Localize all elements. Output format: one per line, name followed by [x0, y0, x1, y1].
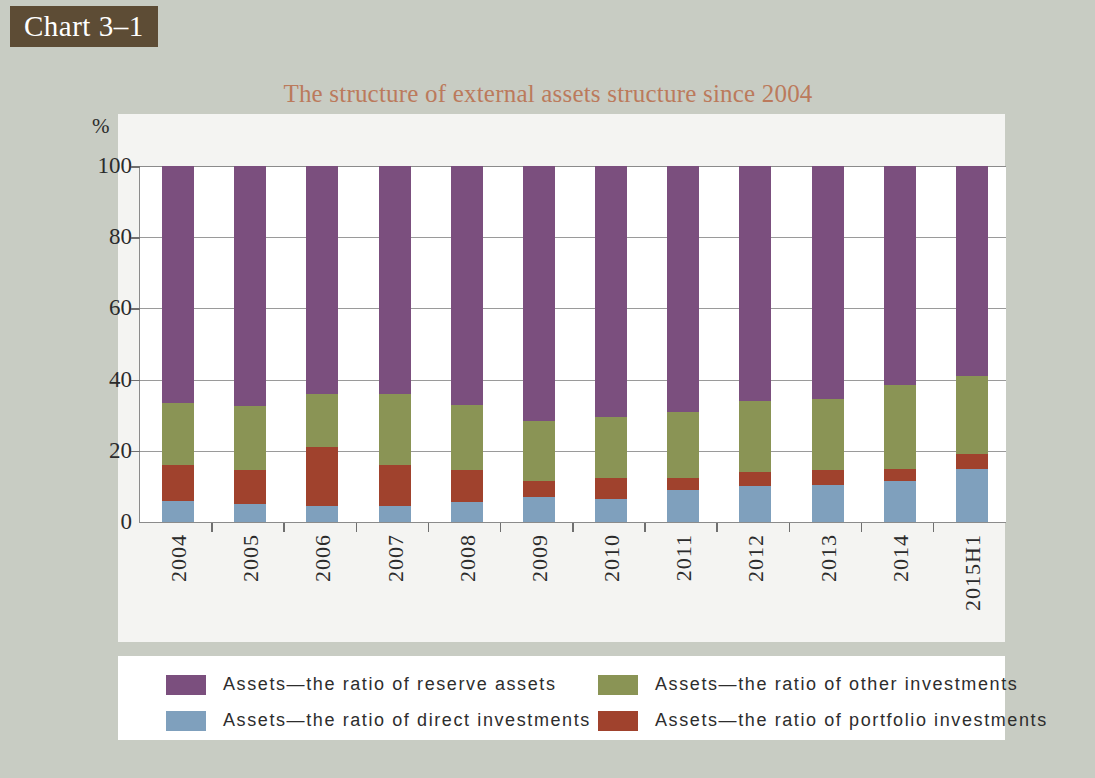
bar-2004 [162, 166, 194, 522]
gridline [140, 308, 1006, 309]
y-axis-tick-label: 80 [78, 224, 132, 250]
bar-segment [523, 481, 555, 497]
x-axis-tick-mark [933, 523, 935, 532]
bar-segment [956, 376, 988, 454]
bar-segment [451, 470, 483, 502]
bar-segment [956, 166, 988, 376]
bar-segment [162, 465, 194, 501]
y-axis-tick-mark [131, 237, 140, 239]
bar-segment [234, 406, 266, 470]
x-axis-tick-mark [789, 523, 791, 532]
bar-segment [595, 417, 627, 478]
bar-segment [956, 454, 988, 468]
bar-2006 [306, 166, 338, 522]
bar-segment [162, 501, 194, 522]
bar-segment [306, 447, 338, 506]
bar-2005 [234, 166, 266, 522]
bar-segment [595, 166, 627, 417]
bar-segment [739, 401, 771, 472]
x-axis-tick-label: 2008 [455, 534, 481, 582]
bar-segment [451, 405, 483, 471]
gridline [140, 166, 1006, 167]
bar-segment [739, 486, 771, 522]
x-axis-tick-mark [644, 523, 646, 532]
bar-segment [451, 166, 483, 405]
legend-swatch [598, 675, 638, 695]
bar-segment [379, 506, 411, 522]
plot-area [139, 166, 1006, 523]
gridline [140, 237, 1006, 238]
x-axis-tick-label: 2010 [599, 534, 625, 582]
chart-number-tag: Chart 3–1 [10, 6, 158, 47]
bar-segment [451, 502, 483, 522]
x-axis-tick-label: 2015H1 [960, 534, 986, 611]
bar-segment [812, 399, 844, 470]
bar-segment [379, 465, 411, 506]
bar-segment [667, 412, 699, 478]
bar-segment [234, 166, 266, 406]
bar-2013 [812, 166, 844, 522]
bar-2007 [379, 166, 411, 522]
y-axis-tick-mark [131, 451, 140, 453]
bar-segment [234, 504, 266, 522]
bar-2014 [884, 166, 916, 522]
x-axis-tick-mark [283, 523, 285, 532]
bar-segment [956, 469, 988, 522]
x-axis-tick-label: 2013 [816, 534, 842, 582]
x-axis-labels: 2004200520062007200820092010201120122013… [139, 534, 1005, 634]
bar-2009 [523, 166, 555, 522]
x-axis-tick-label: 2012 [743, 534, 769, 582]
y-axis-unit-label: % [92, 114, 110, 139]
legend-item[interactable]: Assets—the ratio of direct investments [166, 710, 591, 731]
bar-2011 [667, 166, 699, 522]
bar-segment [379, 166, 411, 394]
y-axis-tick-label: 60 [78, 295, 132, 321]
x-axis-tick-label: 2014 [888, 534, 914, 582]
bar-segment [306, 394, 338, 447]
legend-item[interactable]: Assets—the ratio of portfolio investment… [598, 710, 1048, 731]
legend-swatch [166, 675, 206, 695]
y-axis-tick-label: 100 [78, 153, 132, 179]
bar-segment [739, 472, 771, 486]
x-axis-ticks [139, 523, 1005, 533]
bar-segment [523, 421, 555, 482]
y-axis-tick-mark [131, 308, 140, 310]
bar-segment [523, 166, 555, 421]
bar-segment [884, 481, 916, 522]
x-axis-tick-label: 2007 [383, 534, 409, 582]
x-axis-tick-label: 2009 [527, 534, 553, 582]
legend-label: Assets—the ratio of portfolio investment… [655, 710, 1048, 731]
bar-segment [812, 470, 844, 484]
bar-segment [595, 499, 627, 522]
gridline [140, 380, 1006, 381]
x-axis-tick-label: 2011 [671, 534, 697, 581]
bar-segment [162, 166, 194, 403]
legend-label: Assets—the ratio of reserve assets [223, 674, 557, 695]
legend-label: Assets—the ratio of direct investments [223, 710, 591, 731]
legend-item[interactable]: Assets—the ratio of reserve assets [166, 674, 557, 695]
legend-swatch [166, 711, 206, 731]
y-axis-tick-label: 40 [78, 367, 132, 393]
x-axis-tick-mark [861, 523, 863, 532]
chart-title: The structure of external assets structu… [14, 80, 1082, 108]
x-axis-tick-mark [500, 523, 502, 532]
bar-segment [812, 485, 844, 522]
x-axis-tick-mark [428, 523, 430, 532]
x-axis-tick-mark [716, 523, 718, 532]
bar-segment [306, 166, 338, 394]
bar-segment [739, 166, 771, 401]
x-axis-tick-mark [572, 523, 574, 532]
bar-segment [884, 469, 916, 481]
x-axis-tick-label: 2006 [310, 534, 336, 582]
x-axis-tick-label: 2004 [166, 534, 192, 582]
bar-2012 [739, 166, 771, 522]
x-axis-tick-mark [211, 523, 213, 532]
bar-segment [162, 403, 194, 465]
gridline [140, 451, 1006, 452]
bar-segment [306, 506, 338, 522]
chart-legend: Assets—the ratio of reserve assetsAssets… [118, 656, 1005, 740]
bar-segment [812, 166, 844, 399]
y-axis-tick-label: 0 [78, 509, 132, 535]
bar-segment [667, 166, 699, 412]
legend-item[interactable]: Assets—the ratio of other investments [598, 674, 1018, 695]
